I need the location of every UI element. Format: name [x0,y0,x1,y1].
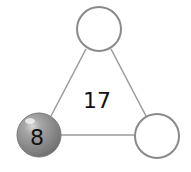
edge-right [111,49,146,116]
node-bottom-left-value: 8 [30,125,44,150]
node-top[interactable] [77,7,121,51]
triangle-puzzle-diagram: 17 8 [0,0,191,172]
center-value: 17 [83,88,111,113]
highlight-icon [25,118,35,124]
diagram-svg: 17 8 [0,0,191,172]
edge-left [51,49,86,116]
node-bottom-right[interactable] [135,114,179,158]
